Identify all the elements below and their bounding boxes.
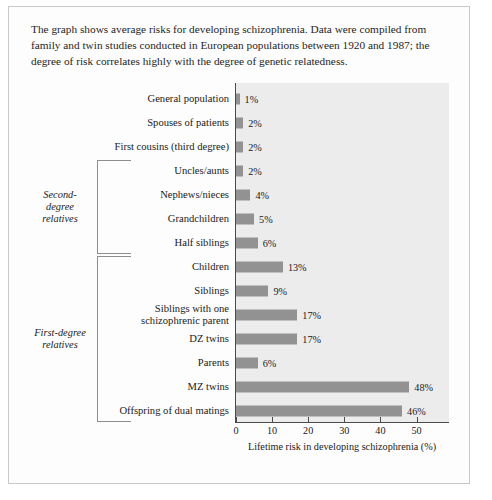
bar-row: MZ twins48% xyxy=(9,375,471,399)
bar-row: Offspring of dual matings46% xyxy=(9,399,471,423)
bar-row: First cousins (third degree)2% xyxy=(9,135,471,159)
group-bracket xyxy=(97,160,131,254)
bar-value-label: 48% xyxy=(414,382,433,393)
group-label: Second-degreerelatives xyxy=(25,189,95,224)
bar-category-label: General population xyxy=(105,93,229,105)
group-label: First-degreerelatives xyxy=(25,327,95,351)
bar-category-label: Spouses of patients xyxy=(105,117,229,129)
bar xyxy=(236,358,258,369)
x-axis-tick xyxy=(344,417,345,422)
x-axis-tick xyxy=(236,417,237,422)
bar xyxy=(236,262,283,273)
x-axis-tick-label: 10 xyxy=(267,425,277,436)
bar-value-label: 2% xyxy=(248,118,262,129)
bar xyxy=(236,238,258,249)
bar-value-label: 17% xyxy=(302,334,321,345)
bar-value-label: 5% xyxy=(259,214,273,225)
x-axis-tick xyxy=(417,417,418,422)
bar-row: General population1% xyxy=(9,87,471,111)
bar xyxy=(236,406,402,417)
x-axis-tick xyxy=(380,417,381,422)
group-bracket xyxy=(97,256,131,422)
x-axis-tick xyxy=(272,417,273,422)
bar-value-label: 2% xyxy=(248,166,262,177)
bar xyxy=(236,118,243,129)
bar-row: Parents6% xyxy=(9,351,471,375)
bar-value-label: 6% xyxy=(263,358,277,369)
x-axis-tick xyxy=(308,417,309,422)
bar-row: Siblings with oneschizophrenic parent17% xyxy=(9,303,471,327)
bar-value-label: 9% xyxy=(273,286,287,297)
bar xyxy=(236,214,254,225)
x-axis-tick-label: 40 xyxy=(375,425,385,436)
x-axis-line xyxy=(235,422,449,423)
bar-row: Uncles/aunts2% xyxy=(9,159,471,183)
bar xyxy=(236,310,297,321)
x-axis-tick-label: 50 xyxy=(411,425,421,436)
bar-value-label: 13% xyxy=(288,262,307,273)
bar-value-label: 4% xyxy=(255,190,269,201)
bar xyxy=(236,286,268,297)
bar xyxy=(236,334,297,345)
bar-value-label: 2% xyxy=(248,142,262,153)
bar-chart: General population1%Spouses of patients2… xyxy=(9,7,471,485)
x-axis-tick-label: 20 xyxy=(303,425,313,436)
bar-row: Children13% xyxy=(9,255,471,279)
x-axis-tick-label: 0 xyxy=(233,425,238,436)
bar xyxy=(236,166,243,177)
bar-row: Spouses of patients2% xyxy=(9,111,471,135)
bar xyxy=(236,382,409,393)
bar-value-label: 1% xyxy=(245,94,259,105)
x-axis-tick-label: 30 xyxy=(339,425,349,436)
bar-value-label: 46% xyxy=(407,406,426,417)
bar xyxy=(236,142,243,153)
bar-category-label: First cousins (third degree) xyxy=(105,141,229,153)
figure-page: The graph shows average risks for develo… xyxy=(8,6,470,484)
x-axis-title: Lifetime risk in developing schizophreni… xyxy=(235,441,449,452)
bar-row: Half siblings6% xyxy=(9,231,471,255)
bar-value-label: 6% xyxy=(263,238,277,249)
bar xyxy=(236,94,240,105)
bar-row: Siblings9% xyxy=(9,279,471,303)
bar xyxy=(236,190,250,201)
bar-value-label: 17% xyxy=(302,310,321,321)
